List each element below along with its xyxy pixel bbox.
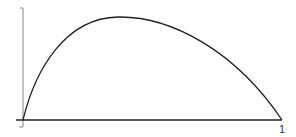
y-axis: [19, 8, 23, 127]
chart: 1: [0, 0, 296, 137]
data-curve: [23, 17, 282, 120]
chart-svg: 1: [0, 0, 296, 137]
x-tick-label-end: 1: [279, 123, 285, 135]
